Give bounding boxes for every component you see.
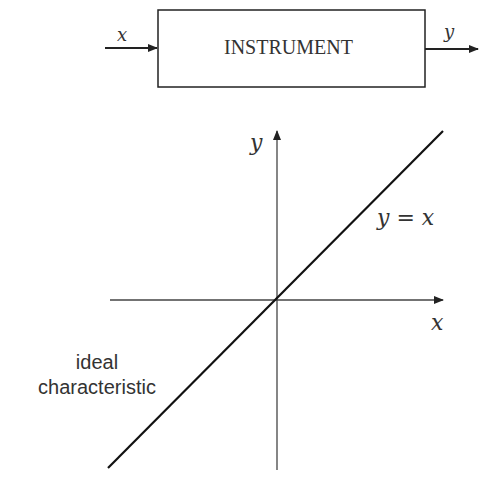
instrument-ideal-characteristic-diagram: x INSTRUMENT y y x y = x ideal character…: [0, 0, 489, 493]
line-equation-label: y = x: [377, 205, 434, 230]
input-label: x: [117, 24, 127, 45]
annotation-line-1: ideal: [22, 350, 172, 375]
x-axis-label: x: [431, 310, 443, 335]
ideal-characteristic-annotation: ideal characteristic: [22, 350, 172, 400]
y-axis-label: y: [250, 130, 262, 155]
annotation-line-2: characteristic: [22, 375, 172, 400]
diagram-graphics: [0, 0, 489, 493]
output-label: y: [444, 21, 454, 42]
instrument-label: INSTRUMENT: [224, 36, 353, 59]
